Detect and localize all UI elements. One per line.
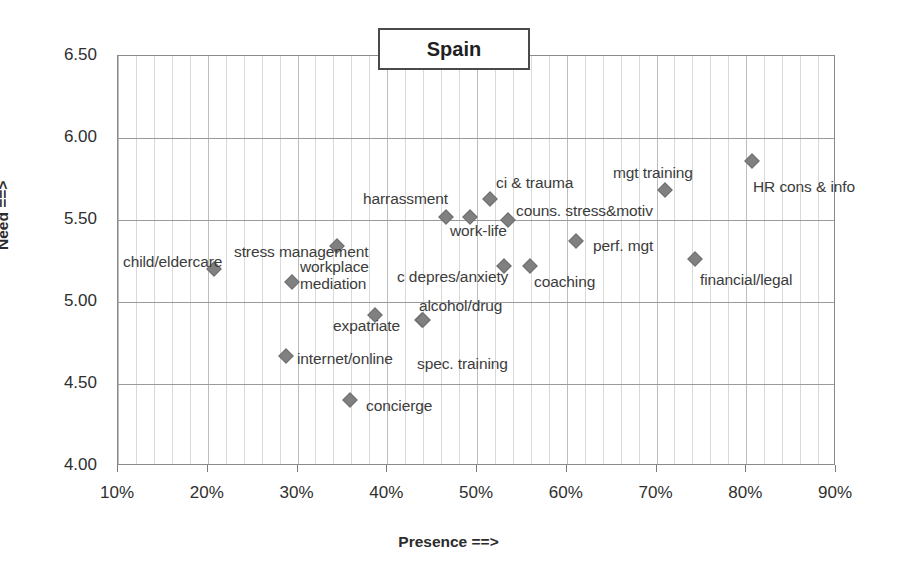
gridline-vertical-major	[567, 56, 568, 464]
gridline-vertical-minor	[728, 56, 729, 464]
gridline-vertical-minor	[782, 56, 783, 464]
x-axis-tickmark	[656, 465, 657, 472]
gridline-vertical-major	[118, 56, 119, 464]
data-point-marker	[568, 234, 584, 250]
gridline-vertical-minor	[674, 56, 675, 464]
y-axis-tick-label: 5.50	[35, 209, 97, 229]
x-axis-tick-label: 40%	[369, 483, 403, 503]
y-axis-tick-label: 4.50	[35, 373, 97, 393]
scatter-chart: Spain Need ==> Presence ==> 4.004.505.00…	[0, 0, 897, 576]
data-point-label: perf. mgt	[593, 237, 653, 254]
x-axis-tick-label: 90%	[818, 483, 852, 503]
data-point-label: expatriate	[333, 317, 400, 334]
data-point-marker	[343, 393, 359, 409]
data-point-label: financial/legal	[700, 271, 792, 288]
chart-title-box: Spain	[378, 28, 530, 70]
data-point-marker	[687, 252, 703, 268]
gridline-vertical-minor	[764, 56, 765, 464]
plot-area	[117, 55, 835, 465]
x-axis-tick-label: 50%	[459, 483, 493, 503]
data-point-label: mgt training	[613, 164, 693, 181]
gridline-vertical-minor	[818, 56, 819, 464]
data-point-label: c depres/anxiety	[397, 268, 508, 285]
gridline-vertical-minor	[549, 56, 550, 464]
gridline-vertical-minor	[585, 56, 586, 464]
x-axis-tick-label: 60%	[549, 483, 583, 503]
data-point-label: spec. training	[417, 355, 508, 372]
y-axis-tick-labels: 4.004.505.005.506.006.50	[35, 0, 97, 576]
data-point-label: alcohol/drug	[419, 297, 502, 314]
x-axis-tickmark	[835, 465, 836, 472]
gridline-horizontal	[118, 220, 834, 221]
x-axis-tickmark	[207, 465, 208, 472]
gridline-vertical-minor	[441, 56, 442, 464]
data-point-label: internet/online	[297, 350, 393, 367]
data-point-label: work-life	[450, 222, 507, 239]
x-axis-title: Presence ==>	[0, 533, 897, 551]
gridline-vertical-minor	[226, 56, 227, 464]
gridline-vertical-minor	[639, 56, 640, 464]
y-axis-tick-label: 6.50	[35, 45, 97, 65]
gridline-horizontal	[118, 384, 834, 385]
x-axis-tick-label: 70%	[638, 483, 672, 503]
x-axis-tick-label: 80%	[728, 483, 762, 503]
gridline-vertical-minor	[710, 56, 711, 464]
data-point-label: couns. stress&motiv	[516, 202, 653, 219]
x-axis-tickmark	[386, 465, 387, 472]
gridline-vertical-minor	[603, 56, 604, 464]
data-point-label: coaching	[534, 273, 595, 290]
x-axis-tickmark	[297, 465, 298, 472]
gridline-vertical-minor	[459, 56, 460, 464]
gridline-vertical-major	[657, 56, 658, 464]
gridline-vertical-major	[477, 56, 478, 464]
data-point-label: workplace mediation	[300, 258, 395, 293]
data-point-label: child/eldercare	[123, 253, 222, 270]
x-axis-tickmark	[745, 465, 746, 472]
x-axis-tick-label: 30%	[279, 483, 313, 503]
data-point-label: stress management	[234, 243, 368, 260]
chart-title: Spain	[427, 38, 481, 61]
data-point-label: ci & trauma	[496, 174, 573, 191]
y-axis-tick-label: 6.00	[35, 127, 97, 147]
gridline-vertical-minor	[495, 56, 496, 464]
x-axis-tickmark	[117, 465, 118, 472]
gridline-vertical-minor	[513, 56, 514, 464]
gridline-vertical-minor	[621, 56, 622, 464]
data-point-marker	[657, 183, 673, 199]
y-axis-title: Need ==>	[0, 181, 12, 250]
gridline-vertical-minor	[800, 56, 801, 464]
y-axis-tick-label: 5.00	[35, 291, 97, 311]
gridline-horizontal	[118, 138, 834, 139]
data-point-label: concierge	[366, 397, 432, 414]
data-point-label: harrassment	[363, 190, 448, 207]
gridline-vertical-major	[746, 56, 747, 464]
x-axis-tick-label: 10%	[100, 483, 134, 503]
y-axis-tick-label: 4.00	[35, 455, 97, 475]
x-axis-tick-label: 20%	[190, 483, 224, 503]
x-axis-tickmark	[476, 465, 477, 472]
x-axis-tickmark	[566, 465, 567, 472]
data-point-marker	[522, 258, 538, 274]
data-point-label: HR cons & info	[753, 178, 855, 195]
